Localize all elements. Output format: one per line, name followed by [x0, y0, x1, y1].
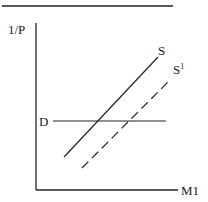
supply-line [64, 57, 158, 157]
supply-shifted-label: S1 [173, 62, 184, 77]
y-axis-label: 1/P [8, 22, 25, 37]
supply-shifted-letter: S [173, 62, 180, 77]
demand-label: D [39, 114, 48, 129]
supply-shifted-superscript: 1 [180, 62, 184, 71]
x-axis-label: M1 [181, 183, 199, 198]
money-market-diagram: 1/P M1 D S S1 [0, 0, 208, 202]
supply-label: S [158, 43, 165, 58]
